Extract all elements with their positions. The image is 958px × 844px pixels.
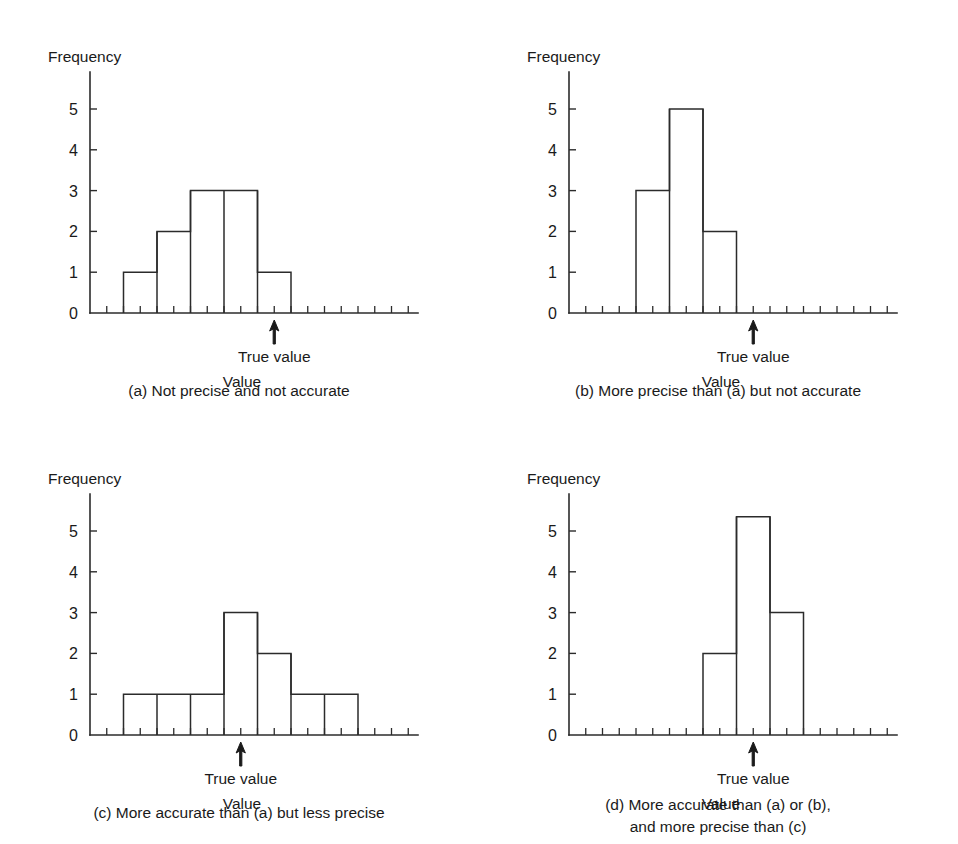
y-tick-label: 2 bbox=[548, 223, 557, 240]
chart-panel-d: Frequency 012345 True value Value (d) Mo… bbox=[479, 422, 958, 844]
true-value-label-c: True value bbox=[204, 770, 277, 787]
y-tick-label: 2 bbox=[69, 223, 78, 240]
true-value-arrow-icon bbox=[236, 742, 245, 766]
y-tick-label: 5 bbox=[548, 101, 557, 118]
y-tick-label: 2 bbox=[548, 645, 557, 662]
y-tick-label: 0 bbox=[548, 305, 557, 322]
y-tick-label: 0 bbox=[69, 727, 78, 744]
panel-caption-d: (d) More accurate than (a) or (b), bbox=[605, 796, 831, 813]
true-value-label-b: True value bbox=[717, 348, 790, 365]
true-value-label-a: True value bbox=[238, 348, 311, 365]
y-tick-label: 0 bbox=[548, 727, 557, 744]
y-tick-label: 3 bbox=[548, 183, 557, 200]
y-tick-label: 1 bbox=[69, 686, 78, 703]
chart-panel-b: Frequency 012345 True value Value (b) Mo… bbox=[479, 0, 958, 422]
chart-panel-a: Frequency 012345 True value Value (a) No… bbox=[0, 0, 479, 422]
true-value-arrow-icon bbox=[270, 320, 279, 344]
true-value-arrow-icon bbox=[749, 742, 758, 766]
plot-area-c: 012345 bbox=[69, 494, 418, 766]
y-tick-label: 4 bbox=[69, 142, 78, 159]
y-tick-label: 4 bbox=[548, 564, 557, 581]
histogram-outline bbox=[636, 109, 737, 313]
y-axis-title-c: Frequency bbox=[48, 470, 121, 487]
plot-area-a: 012345 bbox=[69, 72, 418, 344]
y-tick-label: 5 bbox=[69, 523, 78, 540]
plot-area-b: 012345 bbox=[548, 72, 897, 344]
chart-svg-d: Frequency 012345 True value Value (d) Mo… bbox=[479, 422, 958, 844]
y-tick-label: 3 bbox=[548, 605, 557, 622]
y-tick-label: 4 bbox=[548, 142, 557, 159]
y-tick-label: 3 bbox=[69, 183, 78, 200]
chart-svg-a: Frequency 012345 True value Value (a) No… bbox=[0, 0, 479, 422]
chart-panel-c: Frequency 012345 True value Value (c) Mo… bbox=[0, 422, 479, 844]
panel-caption-a: (a) Not precise and not accurate bbox=[128, 382, 349, 399]
y-tick-label: 0 bbox=[69, 305, 78, 322]
histogram-outline bbox=[703, 517, 804, 735]
true-value-label-d: True value bbox=[717, 770, 790, 787]
histogram-outline bbox=[124, 191, 292, 313]
y-tick-label: 1 bbox=[548, 264, 557, 281]
y-axis-title-b: Frequency bbox=[527, 48, 600, 65]
plot-area-d: 012345 bbox=[548, 494, 897, 766]
histogram-outline bbox=[124, 613, 359, 735]
y-tick-label: 4 bbox=[69, 564, 78, 581]
y-tick-label: 5 bbox=[69, 101, 78, 118]
chart-svg-c: Frequency 012345 True value Value (c) Mo… bbox=[0, 422, 479, 844]
y-tick-label: 1 bbox=[69, 264, 78, 281]
panel-caption-d-line2: and more precise than (c) bbox=[630, 818, 807, 835]
y-axis-title-a: Frequency bbox=[48, 48, 121, 65]
figure-root: Frequency 012345 True value Value (a) No… bbox=[0, 0, 958, 844]
chart-svg-b: Frequency 012345 True value Value (b) Mo… bbox=[479, 0, 958, 422]
y-tick-label: 5 bbox=[548, 523, 557, 540]
y-tick-label: 2 bbox=[69, 645, 78, 662]
panel-caption-b: (b) More precise than (a) but not accura… bbox=[575, 382, 861, 399]
panel-caption-c: (c) More accurate than (a) but less prec… bbox=[93, 804, 384, 821]
true-value-arrow-icon bbox=[749, 320, 758, 344]
y-tick-label: 3 bbox=[69, 605, 78, 622]
y-axis-title-d: Frequency bbox=[527, 470, 600, 487]
y-tick-label: 1 bbox=[548, 686, 557, 703]
